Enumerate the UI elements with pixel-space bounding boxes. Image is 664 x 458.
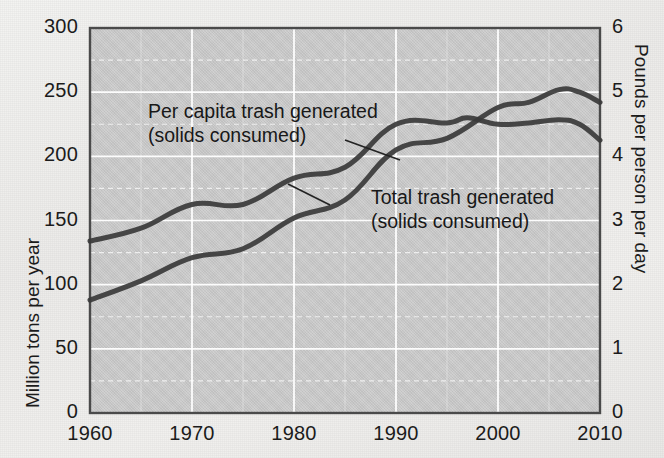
total-annotation-line1: Total trash generated — [371, 186, 554, 210]
y-axis-tick-150: 150 — [0, 208, 78, 231]
y-axis-tick-200: 200 — [0, 143, 78, 166]
y2-axis-tick-6: 6 — [612, 15, 652, 38]
y2-axis-tick-2: 2 — [612, 272, 652, 295]
x-axis-tick-1990: 1990 — [356, 422, 436, 445]
x-axis-tick-1970: 1970 — [152, 422, 232, 445]
y2-axis-tick-0: 0 — [612, 400, 652, 423]
per-capita-annotation-line2: (solids consumed) — [148, 124, 378, 148]
chart-figure: 0501001502002503000123456196019701980199… — [0, 0, 664, 458]
x-axis-tick-1960: 1960 — [50, 422, 130, 445]
y2-axis-tick-1: 1 — [612, 336, 652, 359]
per-capita-annotation: Per capita trash generated (solids consu… — [148, 100, 378, 148]
total-annotation: Total trash generated (solids consumed) — [371, 186, 554, 234]
x-axis-tick-2010: 2010 — [560, 422, 640, 445]
y2-axis-title: Pounds per person per day — [630, 44, 652, 273]
total-annotation-line2: (solids consumed) — [371, 210, 554, 234]
plot-svg — [0, 0, 664, 458]
per-capita-annotation-line1: Per capita trash generated — [148, 100, 378, 124]
y-axis-tick-250: 250 — [0, 79, 78, 102]
y-axis-title: Million tons per year — [22, 238, 44, 408]
x-axis-tick-1980: 1980 — [254, 422, 334, 445]
y-axis-tick-300: 300 — [0, 15, 78, 38]
x-axis-tick-2000: 2000 — [458, 422, 538, 445]
